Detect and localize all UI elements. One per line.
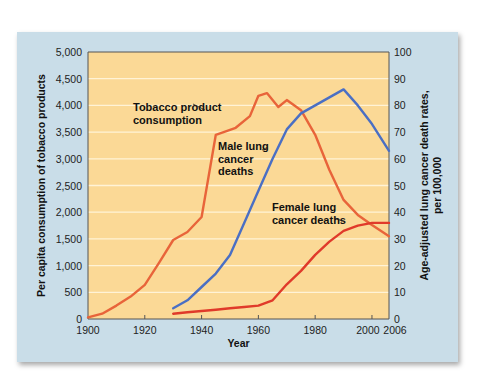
y-tick-right: 30 bbox=[394, 233, 406, 245]
y-tick-left: 1,000 bbox=[56, 260, 82, 272]
annotation-label: deaths bbox=[218, 165, 253, 177]
x-tick-label: 1980 bbox=[303, 324, 327, 336]
y-tick-left: 4,000 bbox=[56, 99, 82, 111]
y-tick-left: 1,500 bbox=[56, 233, 82, 245]
y-tick-left: 2,000 bbox=[56, 206, 82, 218]
y-tick-right: 10 bbox=[394, 286, 406, 298]
x-tick-label: 1900 bbox=[76, 324, 100, 336]
annotation-label: Male lung bbox=[218, 140, 269, 152]
x-axis-label: Year bbox=[227, 337, 249, 349]
y-axis-label-left: Per capita consumption of tobacco produc… bbox=[35, 74, 47, 297]
y-tick-right: 40 bbox=[394, 206, 406, 218]
y-tick-right: 60 bbox=[394, 153, 406, 165]
y-tick-right: 50 bbox=[394, 180, 406, 192]
x-tick-label: 2006 bbox=[383, 324, 407, 336]
y-tick-left: 3,000 bbox=[56, 153, 82, 165]
svg-text:per 100,000: per 100,000 bbox=[431, 157, 443, 214]
line-chart: 05001,0001,5002,0002,5003,0003,5004,0004… bbox=[0, 0, 483, 376]
x-tick-label: 1920 bbox=[133, 324, 157, 336]
y-tick-left: 3,500 bbox=[56, 126, 82, 138]
y-tick-left: 5,000 bbox=[56, 46, 82, 58]
annotation-label: cancer bbox=[218, 153, 254, 165]
annotation-label: consumption bbox=[133, 114, 202, 126]
x-tick-label: 1940 bbox=[190, 324, 214, 336]
y-tick-right: 70 bbox=[394, 126, 406, 138]
x-tick-label: 1960 bbox=[247, 324, 271, 336]
y-tick-right: 80 bbox=[394, 99, 406, 111]
annotation-label: Tobacco product bbox=[133, 101, 222, 113]
y-tick-right: 100 bbox=[394, 46, 412, 58]
annotation-label: cancer deaths bbox=[272, 214, 346, 226]
y-tick-left: 2,500 bbox=[56, 180, 82, 192]
y-tick-left: 4,500 bbox=[56, 73, 82, 85]
y-tick-right: 20 bbox=[394, 260, 406, 272]
y-axis-label-right: Age-adjusted lung cancer death rates,per… bbox=[418, 90, 443, 280]
y-tick-right: 90 bbox=[394, 73, 406, 85]
svg-text:Age-adjusted lung cancer death: Age-adjusted lung cancer death rates, bbox=[418, 90, 430, 280]
annotation-label: Female lung bbox=[272, 201, 336, 213]
x-tick-label: 2000 bbox=[356, 324, 380, 336]
y-tick-left: 500 bbox=[64, 286, 82, 298]
